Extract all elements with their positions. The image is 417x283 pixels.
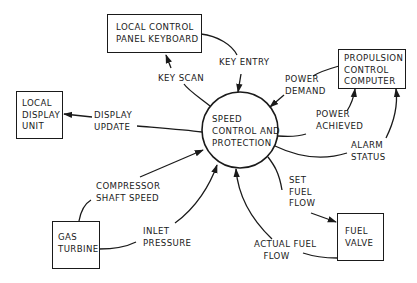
- flow-label-key-scan: KEY SCAN: [158, 73, 204, 85]
- flow-key-scan-line: [184, 84, 210, 106]
- flow-display-update-line: [137, 126, 202, 132]
- flow-label-alarm-status: ALARM STATUS: [351, 140, 386, 163]
- flow-label-display-update: DISPLAY UPDATE: [94, 110, 132, 133]
- flow-set-fuel-flow-line: [268, 157, 282, 190]
- process-label: SPEED CONTROL AND PROTECTION: [212, 113, 280, 149]
- entity-fuel-valve[interactable]: FUEL VALVE: [337, 213, 384, 261]
- entity-label: LOCAL CONTROL PANEL KEYBOARD: [116, 22, 199, 45]
- flow-power-achieved-arrow: [347, 89, 355, 111]
- entity-gas-turbine[interactable]: GAS TURBINE: [52, 221, 100, 269]
- entity-local-display-unit[interactable]: LOCAL DISPLAY UNIT: [16, 91, 63, 139]
- flow-label-power-achieved: POWER ACHIEVED: [316, 109, 363, 132]
- flow-label-set-fuel-flow: SET FUEL FLOW: [289, 175, 315, 210]
- flow-alarm-status-arrow: [386, 89, 397, 138]
- entity-propulsion-control-computer[interactable]: PROPULSION CONTROL COMPUTER: [338, 49, 406, 89]
- flow-label-key-entry: KEY ENTRY: [219, 57, 269, 69]
- flow-alarm-status-line: [275, 146, 347, 157]
- flow-inlet-pressure-line: [99, 242, 136, 249]
- flow-key-scan-arrow: [166, 55, 171, 68]
- flow-compressor-arrow: [140, 150, 203, 177]
- flow-power-achieved-line: [278, 134, 306, 136]
- entity-label: LOCAL DISPLAY UNIT: [22, 98, 60, 133]
- flow-inlet-pressure-arrow: [175, 165, 217, 223]
- flow-key-entry-arrow: [238, 74, 241, 92]
- flow-label-actual-fuel-flow: ACTUAL FUEL FLOW: [254, 239, 317, 262]
- flow-key-entry-line: [201, 34, 237, 55]
- flow-display-update-arrow: [64, 114, 92, 117]
- flow-actual-fuel-flow-arrow: [236, 169, 272, 239]
- flow-label-inlet-pressure: INLET PRESSURE: [143, 226, 191, 249]
- entity-label: PROPULSION CONTROL COMPUTER: [344, 53, 403, 88]
- entity-label: GAS TURBINE: [58, 232, 99, 255]
- entity-local-control-panel-keyboard[interactable]: LOCAL CONTROL PANEL KEYBOARD: [107, 14, 202, 53]
- flow-set-fuel-flow-arrow: [311, 213, 336, 222]
- flow-label-power-demand: POWER DEMAND: [285, 74, 326, 97]
- flow-compressor-line: [79, 200, 91, 221]
- entity-label: FUEL VALVE: [345, 226, 373, 249]
- flow-power-demand-arrow: [270, 95, 284, 107]
- flow-label-compressor-shaft-speed: COMPRESSOR SHAFT SPEED: [96, 181, 160, 204]
